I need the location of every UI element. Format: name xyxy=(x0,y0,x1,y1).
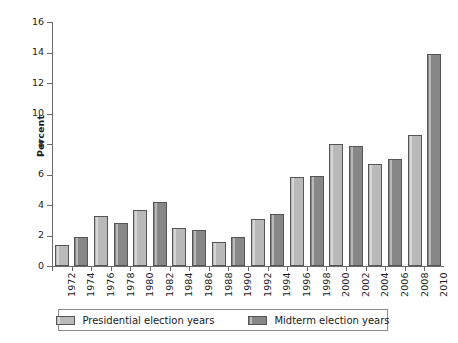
x-axis-tick xyxy=(130,267,131,271)
bar-highlight xyxy=(96,217,98,265)
bar-1974 xyxy=(74,237,88,266)
x-axis-tick xyxy=(405,267,406,271)
x-axis-label-1974: 1974 xyxy=(85,272,96,297)
x-axis-tick xyxy=(307,267,308,271)
y-axis-tick-label: 12 xyxy=(32,77,44,88)
x-axis-tick xyxy=(72,267,73,271)
bar-highlight xyxy=(253,220,255,265)
x-axis-tick xyxy=(248,267,249,271)
y-axis-tick: 4 xyxy=(47,205,52,206)
legend-swatch-midterm xyxy=(248,316,267,325)
x-axis-tick xyxy=(366,267,367,271)
x-axis-tick xyxy=(287,267,288,271)
bar-highlight xyxy=(331,145,333,265)
bar-2002 xyxy=(349,146,363,266)
y-axis-tick-label: 8 xyxy=(38,138,44,149)
x-axis-label-1980: 1980 xyxy=(144,272,155,297)
bar-highlight xyxy=(351,147,353,265)
bar-highlight xyxy=(390,160,392,265)
x-axis-label-1972: 1972 xyxy=(66,272,77,297)
y-axis-tick-label: 16 xyxy=(32,16,44,27)
x-axis-label-1986: 1986 xyxy=(203,272,214,297)
plot-area: 0246810121416 xyxy=(52,22,444,267)
bar-1990 xyxy=(231,237,245,266)
y-axis-tick-label: 10 xyxy=(32,107,44,118)
x-axis-label-1998: 1998 xyxy=(321,272,332,297)
bar-highlight xyxy=(76,238,78,265)
y-axis-tick-label: 14 xyxy=(32,46,44,57)
y-axis-tick: 12 xyxy=(47,83,52,84)
bar-highlight xyxy=(155,203,157,265)
y-axis-line xyxy=(52,22,53,267)
legend-entry-presidential: Presidential election years xyxy=(56,315,214,326)
x-axis-label-1994: 1994 xyxy=(281,272,292,297)
bar-chart: Percent 0246810121416 197219741976197819… xyxy=(0,0,458,343)
y-axis-tick-label: 6 xyxy=(38,168,44,179)
y-axis-tick: 10 xyxy=(47,114,52,115)
bar-highlight xyxy=(272,215,274,265)
bar-highlight xyxy=(233,238,235,265)
y-axis-tick: 8 xyxy=(47,144,52,145)
x-axis-tick xyxy=(189,267,190,271)
legend-swatch-highlight xyxy=(58,317,60,324)
bar-2008 xyxy=(408,135,422,266)
x-axis-tick xyxy=(170,267,171,271)
x-axis-label-1992: 1992 xyxy=(262,272,273,297)
x-axis-label-1978: 1978 xyxy=(125,272,136,297)
x-axis-tick xyxy=(346,267,347,271)
x-axis-tick xyxy=(228,267,229,271)
bar-1980 xyxy=(133,210,147,266)
y-axis-tick-label: 0 xyxy=(38,260,44,271)
y-axis-tick: 16 xyxy=(47,22,52,23)
legend-swatch-presidential xyxy=(56,316,75,325)
x-axis-tick xyxy=(326,267,327,271)
legend-label-midterm: Midterm election years xyxy=(274,315,389,326)
y-axis-tick: 6 xyxy=(47,175,52,176)
bar-1972 xyxy=(55,245,69,266)
x-axis-label-1976: 1976 xyxy=(105,272,116,297)
x-axis-tick xyxy=(424,267,425,271)
y-axis-tick: 14 xyxy=(47,53,52,54)
bar-2006 xyxy=(388,159,402,266)
x-axis-tick xyxy=(268,267,269,271)
chart-legend: Presidential election yearsMidterm elect… xyxy=(58,309,388,331)
bar-1976 xyxy=(94,216,108,266)
bar-2004 xyxy=(368,164,382,266)
y-axis-tick: 2 xyxy=(47,236,52,237)
bar-1982 xyxy=(153,202,167,266)
bar-highlight xyxy=(116,224,118,265)
x-axis-tick xyxy=(209,267,210,271)
bar-highlight xyxy=(214,243,216,265)
bar-1984 xyxy=(172,228,186,266)
bar-highlight xyxy=(194,231,196,265)
bar-1998 xyxy=(310,176,324,266)
bar-highlight xyxy=(292,178,294,265)
x-axis-label-2010: 2010 xyxy=(438,272,449,297)
x-axis-label-2000: 2000 xyxy=(340,272,351,297)
legend-swatch-highlight xyxy=(250,317,252,324)
bar-highlight xyxy=(312,177,314,265)
x-axis-tick xyxy=(150,267,151,271)
bar-1994 xyxy=(270,214,284,266)
bar-1986 xyxy=(192,230,206,266)
y-axis-tick-label: 2 xyxy=(38,229,44,240)
legend-label-presidential: Presidential election years xyxy=(82,315,214,326)
bar-highlight xyxy=(370,165,372,265)
x-axis-tick xyxy=(385,267,386,271)
bar-1978 xyxy=(114,223,128,266)
bar-1996 xyxy=(290,177,304,266)
x-axis-label-2006: 2006 xyxy=(399,272,410,297)
bar-1988 xyxy=(212,242,226,266)
bar-highlight xyxy=(410,136,412,265)
bar-2010 xyxy=(427,54,441,266)
bar-highlight xyxy=(135,211,137,265)
x-axis-label-2008: 2008 xyxy=(419,272,430,297)
x-axis-label-1982: 1982 xyxy=(164,272,175,297)
bar-highlight xyxy=(429,55,431,265)
x-axis-label-1990: 1990 xyxy=(242,272,253,297)
bar-highlight xyxy=(57,246,59,265)
y-axis-tick-label: 4 xyxy=(38,199,44,210)
x-axis-label-2002: 2002 xyxy=(360,272,371,297)
x-axis-label-1984: 1984 xyxy=(183,272,194,297)
x-axis-label-2004: 2004 xyxy=(379,272,390,297)
